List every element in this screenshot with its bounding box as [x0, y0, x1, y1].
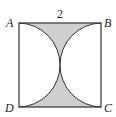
side-length-label: 2	[57, 7, 63, 21]
vertex-label-a: A	[5, 16, 14, 30]
vertex-label-c: C	[104, 101, 113, 115]
geometry-diagram: 2 A B C D	[0, 0, 116, 117]
vertex-label-d: D	[4, 101, 14, 115]
vertex-label-b: B	[104, 16, 112, 30]
